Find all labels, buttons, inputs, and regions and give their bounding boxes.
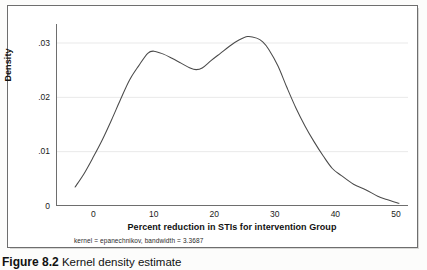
- y-tick-label: .02: [38, 92, 50, 102]
- tick-marks: [56, 43, 396, 206]
- x-tick-label: 10: [149, 209, 158, 219]
- plot-area: [56, 24, 408, 206]
- figure-caption: Figure 8.2 Kernel density estimate: [2, 255, 427, 269]
- x-tick-label: 50: [391, 209, 400, 219]
- y-tick-label: .03: [38, 38, 50, 48]
- x-tick-label: 30: [270, 209, 279, 219]
- y-axis-tick-labels: 0.01.02.03: [8, 24, 50, 206]
- figure-frame: Density 0.01.02.03 01020304050 Percent r…: [7, 5, 418, 248]
- kernel-note: kernel = epanechnikov, bandwidth = 3.368…: [74, 237, 203, 244]
- x-tick-label: 0: [91, 209, 96, 219]
- caption-number: Figure 8.2: [2, 255, 59, 269]
- x-tick-label: 20: [210, 209, 219, 219]
- caption-text: Kernel density estimate: [62, 256, 182, 268]
- y-tick-label: 0: [45, 201, 50, 211]
- scanned-page: Density 0.01.02.03 01020304050 Percent r…: [0, 0, 427, 270]
- density-curve: [75, 36, 399, 203]
- gridlines: [56, 43, 408, 206]
- y-tick-label: .01: [38, 146, 50, 156]
- x-axis-title: Percent reduction in STIs for interventi…: [56, 222, 408, 232]
- x-tick-label: 40: [331, 209, 340, 219]
- axis-lines: [56, 24, 408, 206]
- kernel-density-plot: [56, 24, 408, 206]
- x-axis-tick-labels: 01020304050: [56, 209, 408, 223]
